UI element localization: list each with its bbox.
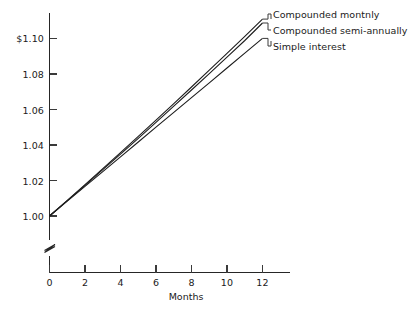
y-tick-label-108: 1.08 (4, 69, 44, 80)
series-line-simple-interest (50, 38, 263, 216)
y-tick-label-110: $1.10 (4, 33, 44, 44)
x-tick-label-0: 0 (46, 277, 52, 288)
x-axis-title: Months (169, 291, 204, 302)
y-tick-marks (50, 39, 58, 217)
x-tick-label-8: 8 (188, 277, 194, 288)
x-tick-marks (50, 265, 263, 273)
x-tick-label-10: 10 (221, 277, 233, 288)
chart-figure: $1.10 1.08 1.06 1.04 1.02 1.00 0 2 4 6 8… (0, 0, 408, 311)
leader-line-simple-interest (263, 38, 272, 46)
x-tick-label-12: 12 (256, 277, 268, 288)
y-tick-label-106: 1.06 (4, 105, 44, 116)
leader-line-compounded-semi-annually (263, 23, 272, 30)
leader-line-compounded-monthly (263, 14, 272, 19)
series-label-compounded-semi-annually: Compounded semi-annually (273, 25, 407, 36)
series-line-compounded-monthly (50, 19, 263, 216)
x-tick-label-2: 2 (82, 277, 88, 288)
x-tick-label-4: 4 (117, 277, 123, 288)
y-tick-label-100: 1.00 (4, 211, 44, 222)
y-tick-label-102: 1.02 (4, 176, 44, 187)
series-label-simple-interest: Simple interest (273, 41, 346, 52)
y-tick-label-104: 1.04 (4, 140, 44, 151)
axis-break-icon (45, 245, 56, 253)
series-label-compounded-monthly: Compounded montnly (273, 9, 380, 20)
x-tick-label-6: 6 (153, 277, 159, 288)
chart-plot-area (0, 0, 408, 311)
